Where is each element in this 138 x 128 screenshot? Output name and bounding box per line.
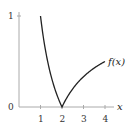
y-tick-label-0: 0 bbox=[8, 102, 14, 112]
curve-label: f(x) bbox=[107, 56, 125, 67]
x-axis-label: x bbox=[117, 101, 123, 112]
x-tick-label-1: 1 bbox=[38, 114, 44, 124]
x-tick-label-3: 3 bbox=[81, 114, 87, 124]
function-curve bbox=[41, 16, 106, 107]
chart: 1 0 1 2 3 4 x f(x) bbox=[0, 0, 138, 128]
x-tick-label-2: 2 bbox=[60, 114, 66, 124]
x-tick-label-4: 4 bbox=[103, 114, 109, 124]
y-tick-label-1: 1 bbox=[8, 11, 14, 21]
